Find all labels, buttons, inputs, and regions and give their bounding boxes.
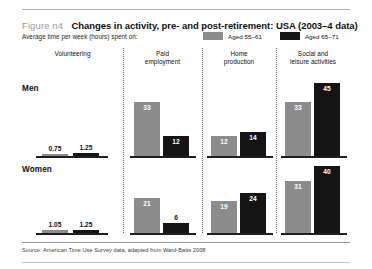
bottom-divider-rule	[22, 262, 350, 263]
legend-swatch-gray	[203, 32, 223, 40]
group-label-men: Men	[22, 84, 39, 93]
bar-value-men-paid-employment-aged-55-61: 33	[134, 104, 160, 111]
bar-value-men-home-production-aged-55-61: 12	[211, 138, 237, 145]
baseline-men-social-leisure	[281, 156, 347, 158]
bargroup-women-home-production: 19 24	[211, 163, 269, 233]
baseline-men-home-production	[207, 156, 273, 158]
column-header-line2: employment	[145, 58, 180, 65]
bargroup-women-volunteering: 1.05 1.25	[40, 163, 104, 233]
bargroup-men-social-leisure: 33 45	[285, 72, 343, 156]
column-header-line2: leisure activities	[290, 58, 336, 65]
baseline-women-paid-employment	[130, 233, 196, 235]
bargroup-men-volunteering: 0.75 1.25	[40, 82, 104, 156]
bar-value-men-social-leisure-aged-55-61: 33	[285, 104, 311, 111]
column-header-line1: Volunteering	[54, 50, 90, 57]
bar-men-social-leisure-aged-55-61: 33	[285, 102, 311, 156]
bar-value-men-paid-employment-aged-65-71: 12	[163, 138, 189, 145]
bar-men-paid-employment-aged-65-71: 12	[163, 136, 189, 156]
bar-value-women-paid-employment-aged-55-61: 21	[134, 200, 160, 207]
column-header-line1: Paid	[156, 50, 169, 57]
bar-value-men-home-production-aged-65-71: 14	[240, 134, 266, 141]
bar-women-paid-employment-aged-65-71: 6	[163, 223, 189, 233]
figure-panel: Figure n4 Changes in activity, pre- and …	[0, 0, 372, 269]
bar-women-social-leisure-aged-55-61: 31	[285, 181, 311, 233]
chart-plot-area: Volunteering Paid employment Home produc…	[22, 48, 350, 238]
bar-value-women-paid-employment-aged-65-71: 6	[163, 214, 189, 221]
column-divider-2	[202, 48, 204, 233]
legend-item-aged-55-61: Aged 55–61	[203, 32, 262, 40]
bar-value-women-social-leisure-aged-65-71: 40	[314, 168, 340, 175]
source-divider-rule	[22, 242, 350, 243]
chart-legend: Aged 55–61 Aged 65–71	[203, 32, 339, 40]
bar-value-men-volunteering-aged-55-61: 0.75	[42, 145, 68, 152]
legend-item-aged-65-71: Aged 65–71	[280, 32, 339, 40]
bar-women-home-production-aged-65-71: 24	[240, 193, 266, 233]
column-divider-3	[276, 48, 278, 233]
legend-label-aged-55-61: Aged 55–61	[228, 33, 262, 40]
column-header-paid-employment: Paid employment	[123, 50, 202, 66]
bar-value-women-home-production-aged-55-61: 19	[211, 203, 237, 210]
top-divider-rule	[22, 9, 350, 10]
baseline-women-volunteering	[36, 233, 108, 235]
column-header-line1: Home	[230, 50, 247, 57]
bar-value-men-social-leisure-aged-65-71: 45	[314, 85, 340, 92]
bar-value-women-social-leisure-aged-55-61: 31	[285, 183, 311, 190]
baseline-men-paid-employment	[130, 156, 196, 158]
figure-number: Figure n4	[22, 20, 63, 31]
figure-subtitle: Average time per week (hours) spent on:	[22, 33, 138, 40]
bar-men-home-production-aged-65-71: 14	[240, 132, 266, 156]
bar-women-home-production-aged-55-61: 19	[211, 201, 237, 233]
baseline-men-volunteering	[36, 156, 108, 158]
bar-men-paid-employment-aged-55-61: 33	[134, 102, 160, 156]
bargroup-women-social-leisure: 31 40	[285, 161, 343, 233]
column-header-home-production: Home production	[202, 50, 276, 66]
column-header-line1: Social and	[298, 50, 328, 57]
column-header-volunteering: Volunteering	[22, 50, 123, 58]
bar-women-social-leisure-aged-65-71: 40	[314, 166, 340, 233]
column-divider-1	[123, 48, 125, 233]
bar-men-home-production-aged-55-61: 12	[211, 136, 237, 156]
bargroup-women-paid-employment: 21 6	[134, 163, 192, 233]
column-header-social-leisure: Social and leisure activities	[276, 50, 350, 66]
bar-men-social-leisure-aged-65-71: 45	[314, 83, 340, 156]
bargroup-men-paid-employment: 33 12	[134, 82, 192, 156]
bar-women-paid-employment-aged-55-61: 21	[134, 198, 160, 233]
figure-source: Source: American Time Use Survey data, a…	[22, 247, 205, 253]
bar-value-women-volunteering-aged-55-61: 1.05	[42, 221, 68, 228]
bargroup-men-home-production: 12 14	[211, 82, 269, 156]
bar-value-women-home-production-aged-65-71: 24	[240, 195, 266, 202]
figure-title-row: Figure n4 Changes in activity, pre- and …	[22, 15, 358, 33]
legend-label-aged-65-71: Aged 65–71	[305, 33, 339, 40]
column-header-line2: production	[224, 58, 254, 65]
bar-value-men-volunteering-aged-65-71: 1.25	[73, 144, 99, 151]
baseline-women-home-production	[207, 233, 273, 235]
figure-title: Changes in activity, pre- and post-retir…	[72, 20, 358, 31]
bar-value-women-volunteering-aged-65-71: 1.25	[73, 221, 99, 228]
legend-swatch-black	[280, 32, 300, 40]
baseline-women-social-leisure	[281, 233, 347, 235]
